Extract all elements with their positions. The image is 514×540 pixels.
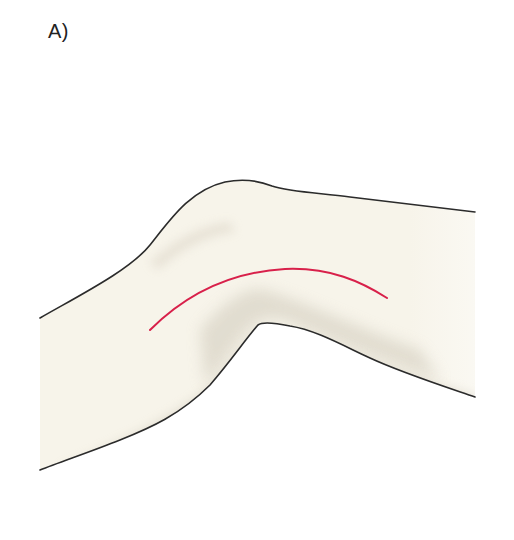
knee-illustration <box>0 0 514 540</box>
